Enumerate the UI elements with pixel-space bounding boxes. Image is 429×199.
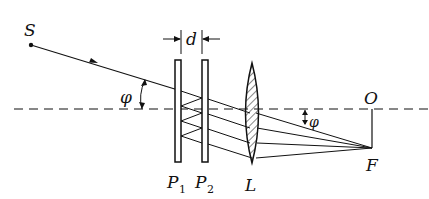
- plate-p1: [175, 60, 181, 162]
- angle-arrow-top-right: [302, 110, 308, 115]
- origin-label: O: [364, 88, 378, 108]
- plate-p1-subscript: 1: [179, 183, 186, 196]
- ray-direction-arrow: [89, 58, 98, 63]
- plate-p2: [202, 60, 208, 162]
- reflection-zigzag: [181, 91, 202, 143]
- plate-p2-subscript: 2: [207, 183, 214, 196]
- dimension-arrowhead-left: [174, 36, 181, 42]
- source-label: S: [24, 20, 36, 40]
- angle-label-right: φ: [309, 114, 319, 130]
- angle-arrow-bottom-left: [139, 102, 145, 109]
- angle-arrow-bottom-right: [302, 120, 308, 125]
- angle-label-left: φ: [120, 87, 132, 107]
- separation-label: d: [186, 29, 197, 49]
- incident-ray: [31, 45, 178, 90]
- plate-p2-label: P: [194, 172, 207, 192]
- focus-label: F: [365, 155, 379, 175]
- fabry-perot-diagram: S φ d L: [0, 0, 429, 199]
- dimension-arrowhead-right: [202, 36, 209, 42]
- lens-label: L: [244, 175, 256, 195]
- plate-p1-label: P: [166, 172, 179, 192]
